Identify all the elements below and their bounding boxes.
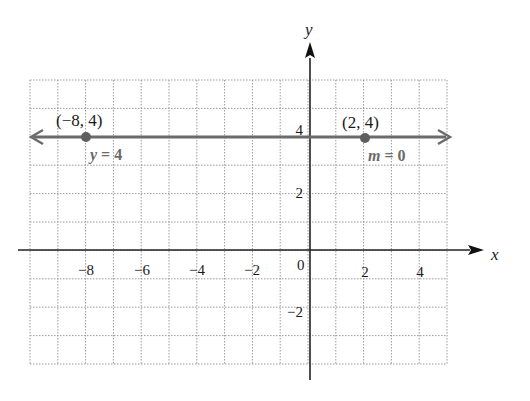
x-tick-label: −2: [244, 262, 260, 278]
point-label-right: (2, 4): [342, 113, 379, 132]
origin-label: 0: [297, 257, 305, 273]
y-tick-labels: 4 2 −2: [287, 122, 303, 320]
x-tick-label: −6: [134, 262, 150, 278]
y-axis-label: y: [303, 20, 313, 39]
equation-label: y = 4: [88, 146, 122, 164]
x-tick-label: 2: [361, 264, 369, 280]
point-neg8-4: [81, 132, 91, 142]
x-tick-labels: −8 −6 −4 −2 2 4: [78, 262, 424, 280]
x-axis: [18, 245, 484, 255]
line-y-equals-4: [31, 130, 450, 144]
x-tick-label: 4: [416, 264, 424, 280]
x-tick-label: −4: [189, 262, 205, 278]
slope-var: m: [368, 147, 380, 164]
equation-rest: = 4: [97, 146, 122, 163]
point-label-left: (−8, 4): [56, 111, 102, 130]
slope-rest: = 0: [380, 147, 405, 164]
coordinate-plane: x y 0 −8 −6 −4 −2 2 4 4 2 −2 (−8, 4) (2,…: [0, 0, 530, 401]
y-tick-label: −2: [287, 304, 303, 320]
x-tick-label: −8: [78, 262, 94, 278]
y-axis-arrow-icon: [305, 42, 315, 58]
x-axis-label: x: [490, 245, 499, 264]
slope-label: m = 0: [368, 147, 406, 164]
y-axis: [305, 42, 315, 380]
y-tick-label: 2: [296, 185, 304, 201]
x-axis-arrow-icon: [468, 245, 484, 255]
point-2-4: [360, 133, 370, 143]
